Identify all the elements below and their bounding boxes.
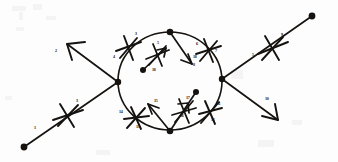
figure-canvas: 1 2 3 3 4 5 5 6 7 8 9 10 11 12 13 14 15 …	[0, 0, 338, 162]
label-3-circle: 3	[135, 32, 137, 36]
label-6: 6	[196, 42, 198, 46]
strand-upper-right	[222, 16, 312, 79]
label-5: 5	[157, 41, 159, 45]
label-2: 2	[55, 49, 57, 53]
endpoint-upper-right	[309, 13, 316, 20]
label-15: 15	[154, 99, 158, 103]
label-18-inner: 18	[193, 55, 197, 59]
strand-upper-left	[67, 44, 118, 82]
tick-upper-left-circle	[116, 36, 141, 60]
label-13: 13	[136, 125, 140, 129]
label-16: 16	[180, 114, 184, 118]
tick-upper-right-strand	[258, 36, 288, 60]
interior-dot-lower	[193, 89, 199, 95]
label-3: 3	[76, 99, 78, 103]
label-5-strand: 5	[252, 53, 254, 57]
arrow-interior-lower-left-head	[148, 104, 159, 114]
label-9: 9	[281, 33, 283, 37]
label-14: 14	[119, 110, 123, 114]
vertex-bottom	[167, 128, 174, 135]
label-1: 1	[34, 126, 36, 130]
diagram-vector-layer	[0, 0, 338, 162]
label-17: 17	[186, 96, 190, 100]
label-18: 18	[152, 68, 156, 72]
label-8: 8	[193, 63, 195, 67]
label-4: 4	[113, 55, 115, 59]
label-11: 11	[217, 102, 220, 106]
label-7: 7	[215, 49, 217, 53]
label-10: 10	[265, 97, 269, 101]
vertex-top	[167, 29, 174, 36]
vertex-left	[115, 79, 121, 85]
endpoint-lower-left	[21, 144, 28, 151]
label-12: 12	[211, 118, 215, 122]
vertex-right	[219, 76, 225, 82]
strand-lower-right	[222, 79, 278, 120]
interior-dot-upper	[140, 67, 146, 73]
